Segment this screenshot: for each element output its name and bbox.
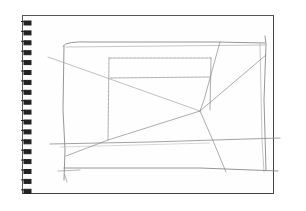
outer-left-edge — [63, 46, 65, 180]
bottom-left-stub — [65, 175, 67, 182]
diag-vp-to-bottomleft — [66, 111, 200, 156]
diag-vp-down — [200, 111, 226, 172]
perspective-sketch — [0, 0, 306, 211]
outer-top-edge-2 — [66, 45, 265, 47]
diag-left-to-vp — [48, 57, 200, 111]
horizon-line — [50, 138, 280, 144]
right-vertical-inner — [260, 44, 264, 172]
inner-mid-edge — [110, 77, 210, 78]
inner-left-edge — [108, 58, 109, 140]
bottom-left-tick — [58, 170, 80, 171]
outer-bottom-edge — [64, 168, 278, 171]
diag-vp-to-topright — [200, 55, 266, 111]
